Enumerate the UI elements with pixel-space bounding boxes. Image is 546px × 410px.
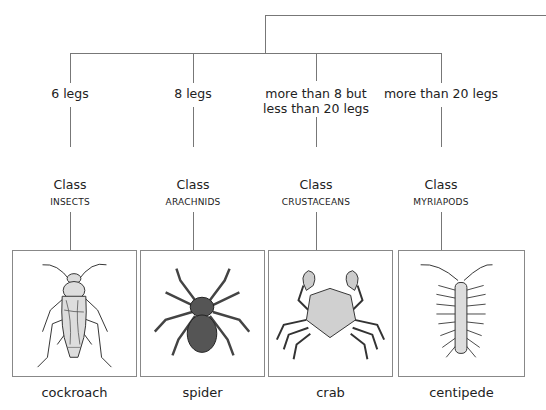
example-caption: crab — [268, 385, 393, 400]
class-name: ARACHNIDS — [133, 197, 253, 207]
class-label: Class — [177, 177, 210, 192]
class-name: MYRIAPODS — [381, 197, 501, 207]
example-caption: cockroach — [12, 385, 137, 400]
class-label: Class — [300, 177, 333, 192]
example-box-centipede — [398, 250, 525, 377]
branch-line — [193, 53, 194, 83]
criterion-label: 8 legs — [143, 86, 243, 101]
example-box-spider — [140, 250, 265, 377]
crab-icon — [269, 251, 392, 376]
branch-line — [316, 212, 317, 250]
branch-line — [70, 53, 71, 83]
criterion-line: more than 8 but — [265, 86, 366, 101]
criterion-label: 6 legs — [20, 86, 120, 101]
branch-line — [316, 53, 317, 81]
branch-line — [193, 107, 194, 147]
branch-line — [441, 107, 442, 147]
branch-line — [316, 117, 317, 147]
example-box-crab — [268, 250, 393, 377]
class-node: Class MYRIAPODS — [381, 177, 501, 207]
cockroach-icon — [13, 251, 136, 376]
criterion-label: more than 20 legs — [381, 86, 501, 101]
branch-line — [70, 107, 71, 147]
tree-branch-bar — [70, 53, 441, 54]
class-node: Class CRUSTACEANS — [256, 177, 376, 207]
branch-line — [193, 212, 194, 250]
branch-line — [441, 53, 442, 83]
class-name: CRUSTACEANS — [256, 197, 376, 207]
spider-icon — [141, 251, 264, 376]
class-label: Class — [425, 177, 458, 192]
branch-line — [70, 212, 71, 250]
criterion-line: less than 20 legs — [263, 101, 369, 116]
class-name: INSECTS — [10, 197, 130, 207]
class-label: Class — [54, 177, 87, 192]
example-caption: centipede — [398, 385, 525, 400]
class-node: Class ARACHNIDS — [133, 177, 253, 207]
tree-top-connector — [265, 15, 546, 16]
class-node: Class INSECTS — [10, 177, 130, 207]
branch-line — [441, 212, 442, 250]
centipede-icon — [399, 251, 524, 376]
example-caption: spider — [140, 385, 265, 400]
tree-trunk — [265, 15, 266, 53]
example-box-cockroach — [12, 250, 137, 377]
criterion-label: more than 8 but less than 20 legs — [256, 86, 376, 116]
